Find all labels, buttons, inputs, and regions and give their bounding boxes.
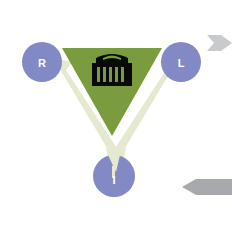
- marker-top-right-arrow: [207, 35, 232, 51]
- node-i[interactable]: I: [93, 155, 135, 197]
- node-r[interactable]: R: [22, 42, 62, 82]
- node-i-label: I: [112, 174, 115, 186]
- node-l[interactable]: L: [161, 42, 201, 82]
- marker-bottom-right-arrow: [182, 179, 232, 195]
- node-l-label: L: [178, 57, 185, 69]
- node-r-label: R: [38, 57, 46, 69]
- classical-building-icon: [92, 54, 132, 86]
- diagram-graphic: R L I: [0, 0, 232, 229]
- diagram-canvas: R L I: [0, 0, 232, 229]
